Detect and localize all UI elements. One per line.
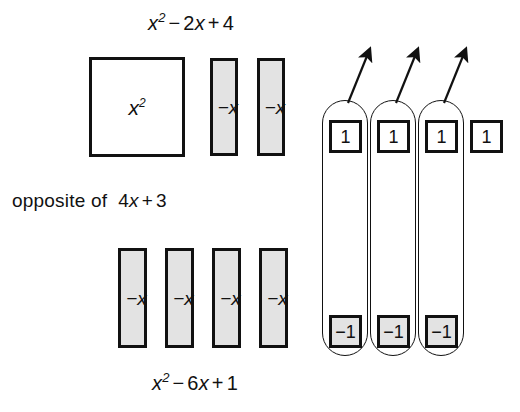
bottom-minus: − [169,372,187,394]
tile-unit-positive-2: 1 [377,120,410,153]
bottom-variable: x [199,372,209,394]
tile-unit-negative-2: −1 [377,315,410,348]
tile-neg-x-bottom-1-label: −x [126,289,147,308]
tile-neg-x-bottom-3: −x [212,248,241,348]
tile-unit-negative-3: −1 [425,315,458,348]
zero-pair-arrow-1 [326,40,396,110]
bottom-expression: x2−6x+1 [152,370,238,395]
bottom-coefficient: 6 [187,372,198,394]
middle-constant: 3 [156,190,167,211]
tile-unit-positive-3-label: 1 [436,128,446,146]
tile-unit-positive-3: 1 [425,120,458,153]
tile-x-squared-label: x2 [128,97,145,118]
tile-neg-x-top-1-label: −x [218,98,239,117]
tile-unit-positive-4-label: 1 [481,128,491,146]
algebra-tile-figure: x2−2x+4 x2 −x −x opposite of 4x+3 −x −x … [0,0,520,412]
tile-unit-negative-1: −1 [329,315,362,348]
tile-neg-x-bottom-4-label: −x [267,289,288,308]
tile-unit-positive-4: 1 [470,120,503,153]
tile-x-squared: x2 [89,57,185,157]
opposite-of-line: opposite of 4x+3 [12,190,167,212]
opposite-of-text: opposite of [12,190,107,211]
title-constant: 4 [223,12,234,34]
tile-neg-x-bottom-2: −x [165,248,194,348]
zero-pair-arrow-2 [374,40,444,110]
title-minus: − [165,12,183,34]
tile-unit-positive-1-label: 1 [340,128,350,146]
title-coefficient: 2 [183,12,194,34]
bottom-plus: + [209,372,227,394]
tile-neg-x-bottom-3-label: −x [220,289,241,308]
tile-neg-x-top-1: −x [210,58,238,156]
tile-unit-positive-1: 1 [329,120,362,153]
middle-plus: + [139,190,156,211]
tile-unit-positive-2-label: 1 [388,128,398,146]
middle-variable: x [129,190,139,211]
bottom-x: x [152,372,162,394]
title-x: x [148,12,158,34]
tile-neg-x-top-2: −x [257,58,285,156]
title-variable: x [195,12,205,34]
tile-unit-negative-3-label: −1 [431,323,452,341]
tile-neg-x-bottom-2-label: −x [173,289,194,308]
tile-neg-x-bottom-4: −x [259,248,288,348]
title-expression: x2−2x+4 [148,10,234,35]
zero-pair-arrow-3 [422,40,492,110]
middle-coefficient: 4 [118,190,129,211]
tile-neg-x-top-2-label: −x [265,98,286,117]
tile-unit-negative-1-label: −1 [335,323,356,341]
tile-unit-negative-2-label: −1 [383,323,404,341]
tile-neg-x-bottom-1: −x [118,248,147,348]
bottom-constant: 1 [227,372,238,394]
title-plus: + [205,12,223,34]
